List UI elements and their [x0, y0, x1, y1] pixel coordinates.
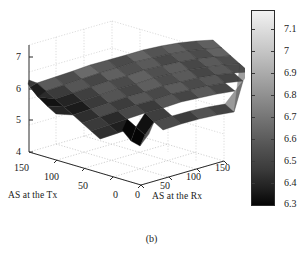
colorbar-tick-7-1: 7.1: [284, 23, 297, 34]
tx-tick-0: 0: [113, 189, 118, 200]
colorbar-tick-6-8: 6.8: [284, 89, 297, 100]
z-tick-6: 6: [16, 83, 21, 94]
colorbar-tick-6-6: 6.6: [284, 133, 297, 144]
tx-tick-100: 100: [44, 171, 59, 182]
z-tick-4: 4: [16, 146, 21, 157]
colorbar-tick-6-3: 6.3: [284, 198, 297, 209]
rx-tick-100: 100: [186, 171, 201, 182]
colorbar-tick-7: 7: [284, 45, 289, 56]
colorbar-tick-6-4: 6.4: [284, 177, 297, 188]
tx-tick-150: 150: [14, 162, 29, 173]
z-tick-7: 7: [16, 51, 21, 62]
rx-tick-150: 150: [215, 162, 230, 173]
colorbar-tick-6-9: 6.9: [284, 67, 297, 78]
colorbar-tick-6-5: 6.5: [284, 155, 297, 166]
figure-caption: (b): [0, 233, 303, 244]
figure-3d-surface-plot: 7 6 5 4 150 100 50 0 0 50 100 150 AS at …: [0, 0, 303, 255]
axis-label-tx: AS at the Tx: [8, 190, 57, 200]
colorbar-tick-6-7: 6.7: [284, 111, 297, 122]
colorbar: [251, 10, 275, 206]
tx-tick-50: 50: [78, 180, 88, 191]
rx-tick-50: 50: [160, 180, 170, 191]
rx-tick-0: 0: [135, 189, 140, 200]
surface-mesh: [28, 40, 249, 146]
z-tick-5: 5: [16, 114, 21, 125]
axis-label-rx: AS at the Rx: [152, 191, 202, 201]
